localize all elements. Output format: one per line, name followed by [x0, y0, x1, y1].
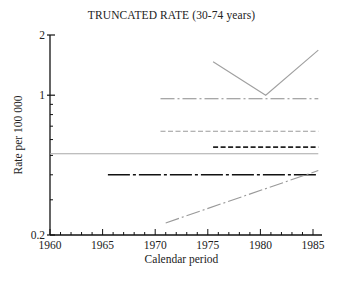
x-tick-label: 1980 — [249, 239, 272, 251]
series-gray-dash-dot-rising — [166, 171, 319, 223]
x-tick-label: 1975 — [196, 239, 219, 251]
plot-area: 0.212196019651970197519801985 — [0, 0, 343, 290]
y-tick-label: 2 — [39, 29, 45, 41]
x-tick-label: 1970 — [144, 239, 167, 251]
y-tick-label: 1 — [39, 89, 45, 101]
x-tick-label: 1960 — [39, 239, 62, 251]
x-tick-label: 1985 — [302, 239, 325, 251]
series-group — [50, 50, 318, 223]
x-tick-label: 1965 — [91, 239, 114, 251]
series-gray-solid-v — [213, 50, 318, 95]
axes: 0.212196019651970197519801985 — [31, 29, 325, 251]
